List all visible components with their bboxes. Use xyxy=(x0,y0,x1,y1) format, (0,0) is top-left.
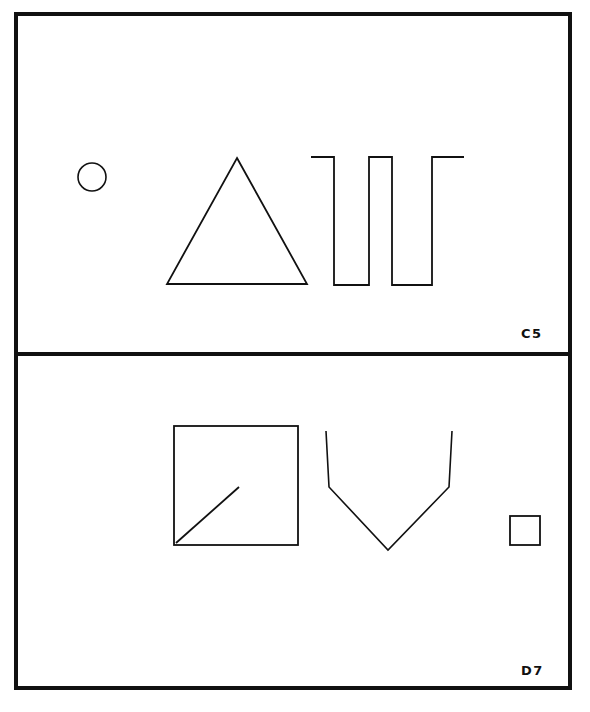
panel-top-shapes xyxy=(78,157,464,285)
square-wave-shape xyxy=(311,157,464,285)
plate-drawing xyxy=(0,0,590,712)
panel-bottom-shapes xyxy=(174,426,540,550)
panel-top-label: C5 xyxy=(521,327,543,340)
figure-plate: C5 D7 xyxy=(0,0,590,712)
triangle-shape xyxy=(167,158,307,284)
outer-frame xyxy=(16,14,570,688)
small-square-shape xyxy=(510,516,540,545)
v-chevron-shape xyxy=(326,431,452,550)
circle-shape xyxy=(78,163,106,191)
panel-bottom-label: D7 xyxy=(521,664,544,677)
diagonal-line-shape xyxy=(176,487,239,543)
